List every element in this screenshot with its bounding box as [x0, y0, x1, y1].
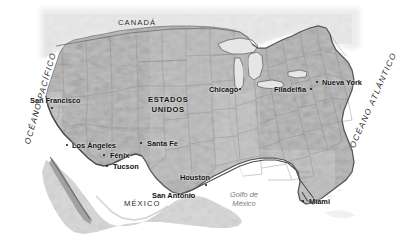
country-label: ESTADOSUNIDOS: [148, 96, 188, 114]
sea-label-line1: Golfo de: [230, 190, 258, 199]
city-label[interactable]: Nueva York: [322, 79, 362, 86]
city-label[interactable]: Tucson: [113, 163, 139, 170]
country-label-line1: CANADÁ: [118, 18, 156, 27]
country-label: MÉXICO: [124, 200, 161, 208]
country-label-line1: ESTADOS: [148, 95, 188, 104]
sea-label-line2: México: [230, 199, 258, 208]
city-label[interactable]: Houston: [180, 174, 210, 181]
country-label-line1: MÉXICO: [124, 199, 161, 208]
country-label: CANADÁ: [118, 19, 156, 27]
city-label[interactable]: Chicago: [209, 86, 238, 93]
sea-label: Golfo deMéxico: [230, 190, 258, 209]
city-label[interactable]: Los Ángeles: [72, 142, 116, 149]
city-label[interactable]: Fénix: [110, 152, 129, 159]
country-label-line2: UNIDOS: [148, 106, 188, 114]
city-label[interactable]: Miami: [309, 198, 330, 205]
city-label[interactable]: Santa Fe: [147, 140, 178, 147]
city-label[interactable]: Filadelfia: [274, 86, 306, 93]
